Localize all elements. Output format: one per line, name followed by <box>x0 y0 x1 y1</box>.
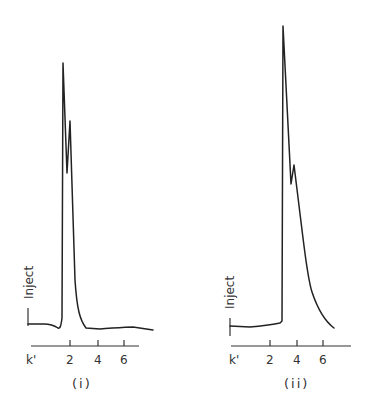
inject-label: Inject <box>223 276 237 309</box>
x-axis-label: k' <box>26 353 36 367</box>
inject-label: Inject <box>22 266 36 299</box>
panel-i: Inject k' 2 4 6 (i) <box>22 63 153 391</box>
panel-caption: (ii) <box>284 376 309 391</box>
panel-caption: (i) <box>72 376 92 391</box>
tick-label-4: 4 <box>293 353 301 367</box>
chromatogram-trace-ii <box>230 26 334 328</box>
panel-ii: Inject k' 2 4 6 (ii) <box>223 26 351 391</box>
chromatogram-trace-i <box>28 63 153 330</box>
chromatogram-figure: Inject k' 2 4 6 (i) Inject k' 2 4 6 (ii) <box>0 0 368 410</box>
tick-label-4: 4 <box>94 353 102 367</box>
x-axis-label: k' <box>229 353 239 367</box>
tick-label-6: 6 <box>319 353 327 367</box>
tick-label-2: 2 <box>266 353 274 367</box>
tick-label-2: 2 <box>66 353 74 367</box>
tick-label-6: 6 <box>120 353 128 367</box>
